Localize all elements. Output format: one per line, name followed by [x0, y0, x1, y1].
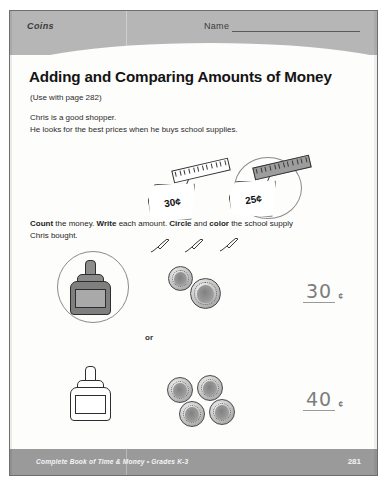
- coin-face: [215, 405, 228, 420]
- coin-dime: [168, 266, 193, 291]
- pencil-icon: [149, 239, 171, 253]
- ruler-item-2: [253, 161, 323, 183]
- glue-label: [75, 289, 106, 308]
- worksheet-footer-band: Complete Book of Time & Money • Grades K…: [10, 449, 377, 475]
- instruction-text: Count the money. Write each amount. Circ…: [30, 218, 360, 241]
- instruction-text-2: each amount.: [116, 219, 169, 228]
- intro-line-1: Chris is a good shopper.: [30, 112, 238, 124]
- coin-face: [203, 381, 216, 396]
- pencil-glyph: [183, 239, 205, 253]
- coin-face: [173, 383, 186, 398]
- header-section-label: Coins: [27, 21, 54, 31]
- coin-quarter: [190, 278, 221, 309]
- price-tag-2: 25¢: [228, 178, 279, 219]
- coin-face: [174, 272, 187, 286]
- glue-label: [75, 395, 106, 414]
- glue-bottle-icon: [68, 366, 114, 422]
- glue-cap: [85, 260, 96, 275]
- worksheet-header-band: Coins Name: [10, 11, 377, 55]
- answer-value: 30: [303, 281, 335, 303]
- coin-dime: [167, 377, 193, 403]
- instruction-text-3: and: [192, 219, 210, 228]
- ruler-item-1: [172, 164, 242, 186]
- instruction-text-4: the school supply: [229, 219, 293, 228]
- price-tag-1: 30¢: [147, 181, 198, 222]
- intro-line-2: He looks for the best prices when he buy…: [30, 124, 238, 136]
- coin-dime: [209, 399, 235, 425]
- cent-sign: ¢: [338, 399, 343, 409]
- price-tag-label: 30¢: [163, 195, 181, 208]
- intro-text: Chris is a good shopper. He looks for th…: [30, 112, 238, 135]
- pencil-icon: [218, 238, 240, 252]
- header-divider: [126, 11, 127, 55]
- or-separator: or: [145, 333, 153, 342]
- footer-credit: Complete Book of Time & Money • Grades K…: [36, 458, 188, 465]
- pencil-icon: [183, 239, 205, 253]
- page-subtitle: (Use with page 282): [30, 93, 102, 102]
- instruction-bold-write: Write: [97, 219, 117, 228]
- coin-dime: [197, 375, 223, 401]
- glue-bottle-icon: [68, 260, 114, 316]
- coin-dime: [179, 401, 205, 427]
- ruler-icon: [171, 158, 230, 184]
- instruction-text-1: the money.: [53, 219, 96, 228]
- instruction-bold-color: color: [209, 219, 229, 228]
- glue-cap: [85, 366, 96, 381]
- price-tag-label: 25¢: [244, 192, 262, 205]
- coin-face: [197, 285, 213, 303]
- instruction-bold-circle: Circle: [169, 219, 191, 228]
- coin-face: [185, 407, 198, 422]
- header-name-label: Name: [204, 21, 229, 31]
- answer-blank-2[interactable]: 40 ¢: [303, 389, 343, 411]
- worksheet-page: Coins Name Adding and Comparing Amounts …: [9, 10, 378, 476]
- pencil-glyph: [149, 239, 171, 253]
- pencil-glyph: [218, 238, 240, 252]
- footer-page-number: 281: [348, 457, 361, 466]
- answer-value: 40: [303, 389, 335, 411]
- cent-sign: ¢: [338, 291, 343, 301]
- ruler-ticks: [175, 160, 227, 177]
- page-title: Adding and Comparing Amounts of Money: [29, 68, 332, 85]
- instruction-bold-count: Count: [30, 219, 53, 228]
- name-write-in-line[interactable]: [232, 31, 360, 32]
- answer-blank-1[interactable]: 30 ¢: [303, 281, 343, 303]
